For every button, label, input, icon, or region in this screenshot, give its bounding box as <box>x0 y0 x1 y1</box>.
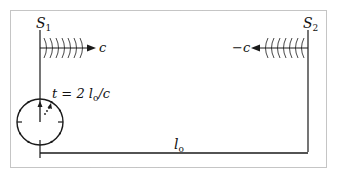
s2-arrow-left-icon <box>251 45 308 52</box>
s1-arrow-right-icon <box>40 45 96 52</box>
distance-label: lo <box>174 136 184 154</box>
s2-velocity-label: −c <box>232 40 251 55</box>
clock-time-label: t = 2 lo/c <box>52 86 111 103</box>
light-clock-diagram: S1 S2 c −c <box>0 0 337 178</box>
s1-velocity-label: c <box>99 40 107 55</box>
clock-icon <box>17 99 63 145</box>
source-s2-label: S2 <box>303 15 318 33</box>
source-s1-label: S1 <box>36 15 51 33</box>
